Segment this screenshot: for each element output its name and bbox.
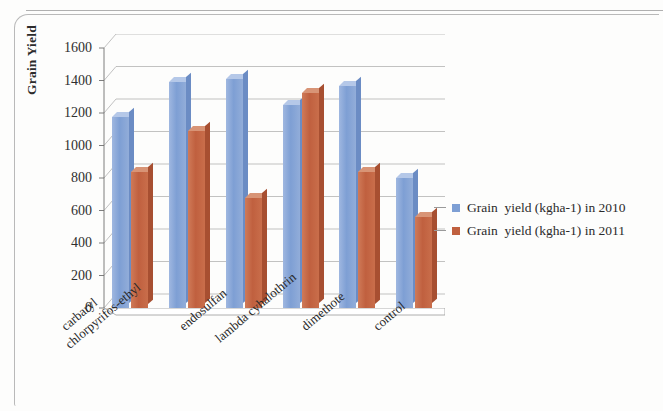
legend-color-swatch [452,227,460,235]
x-axis-category-label: control [370,298,408,334]
x-axis-category-label: dimethote [298,289,348,335]
x-axis-category-label: lambda cyhalothrin [212,269,299,346]
grain-yield-bar-chart: Grain Yield 1600140012001000800600400200… [0,0,663,411]
legend-item[interactable]: Grain yield (kgha-1) in 2011 [452,219,657,242]
legend-leader-line [434,230,446,231]
legend-label: Grain yield (kgha-1) in 2011 [467,223,625,239]
legend-color-swatch [452,204,460,212]
legend-leader-line [434,207,446,208]
legend-label: Grain yield (kgha-1) in 2010 [467,200,626,216]
chart-legend: Grain yield (kgha-1) in 2010Grain yield … [452,196,657,242]
legend-item[interactable]: Grain yield (kgha-1) in 2010 [452,196,657,219]
